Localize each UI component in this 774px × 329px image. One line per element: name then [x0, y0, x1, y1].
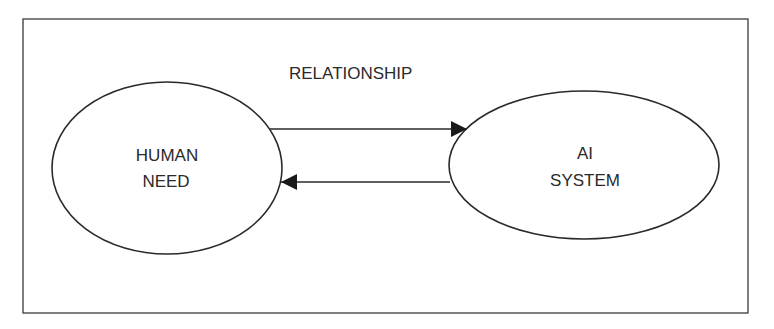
- diagram-title: RELATIONSHIP: [289, 64, 412, 83]
- human-need-label-line2: NEED: [142, 172, 189, 191]
- human-need-label-line1: HUMAN: [136, 146, 198, 165]
- ai-system-label-line2: SYSTEM: [550, 171, 620, 190]
- human-need-ellipse: [52, 82, 282, 254]
- node-ai-system: AI SYSTEM: [449, 91, 719, 239]
- ai-system-ellipse: [449, 91, 719, 239]
- relationship-diagram: RELATIONSHIP HUMAN NEED AI SYSTEM: [0, 0, 774, 329]
- node-human-need: HUMAN NEED: [52, 82, 282, 254]
- ai-system-label-line1: AI: [577, 144, 593, 163]
